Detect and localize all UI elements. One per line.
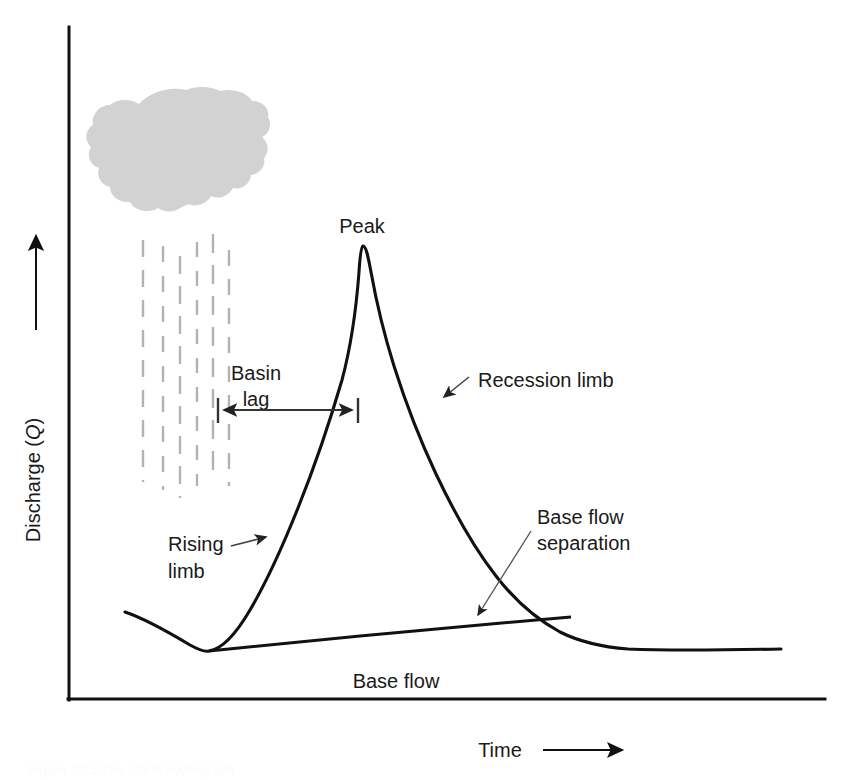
- annotation-base-flow-separation: Base flow separation: [478, 506, 630, 615]
- figure-caption-ghost: Figure 12.5 The storm hydrograph: [28, 762, 235, 777]
- label-recession-limb: Recession limb: [478, 369, 614, 391]
- label-base-flow-separation-line2: separation: [537, 532, 630, 554]
- label-peak: Peak: [339, 215, 386, 237]
- rainfall-dashes: [143, 234, 229, 498]
- y-axis-label-text: Discharge (: [22, 440, 44, 543]
- rain-cloud-icon: [86, 87, 270, 211]
- x-axis-group: Time: [478, 739, 622, 761]
- hydrograph-canvas: Discharge (Q) Time Peak Rising limb Rece…: [0, 0, 852, 780]
- label-base-flow-separation-line1: Base flow: [537, 506, 624, 528]
- annotation-rising-limb: Rising limb: [168, 533, 266, 582]
- hydrograph-figure: Discharge (Q) Time Peak Rising limb Rece…: [0, 0, 852, 780]
- y-axis-group: Discharge (Q): [22, 236, 44, 542]
- x-axis-label: Time: [478, 739, 522, 761]
- label-rising-limb-line2: limb: [168, 560, 205, 582]
- label-basin-lag-line2: lag: [243, 388, 270, 410]
- recession-limb-leader-arrow-icon: [444, 377, 469, 397]
- discharge-hydrograph-curve: [125, 246, 781, 651]
- y-axis-label-close: ): [22, 418, 44, 425]
- label-rising-limb-line1: Rising: [168, 533, 224, 555]
- label-basin-lag-line1: Basin: [231, 362, 281, 384]
- base-flow-separation-leader-arrow-icon: [478, 531, 531, 615]
- y-axis-label: Discharge (Q): [22, 418, 44, 543]
- base-flow-separation-line: [209, 617, 571, 651]
- label-base-flow: Base flow: [353, 670, 440, 692]
- annotation-recession-limb: Recession limb: [444, 369, 614, 397]
- rising-limb-leader-arrow-icon: [231, 537, 266, 546]
- y-axis-label-variable: Q: [22, 424, 44, 440]
